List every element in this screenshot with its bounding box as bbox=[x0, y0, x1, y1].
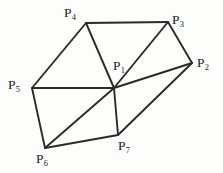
vertex-label-base: P bbox=[113, 58, 121, 73]
vertex-label-base: P bbox=[8, 77, 16, 92]
vertex-label-p3: P3 bbox=[172, 13, 184, 27]
mesh-edge-p6-p7 bbox=[45, 135, 118, 148]
vertex-label-base: P bbox=[64, 5, 72, 20]
vertex-label-p1: P1 bbox=[113, 59, 125, 73]
vertex-label-subscript: 1 bbox=[121, 65, 125, 75]
mesh-edge-p7-p2 bbox=[118, 63, 192, 135]
mesh-edge-p4-p1 bbox=[86, 23, 114, 88]
edge-group bbox=[32, 22, 192, 148]
vertex-label-subscript: 3 bbox=[180, 19, 184, 29]
mesh-edge-p5-p6 bbox=[32, 88, 45, 148]
mesh-figure: P1P2P3P4P5P6P7 bbox=[0, 0, 223, 173]
vertex-label-base: P bbox=[118, 138, 126, 153]
mesh-edge-p4-p3 bbox=[86, 22, 168, 23]
vertex-label-p4: P4 bbox=[64, 6, 76, 20]
vertex-label-subscript: 7 bbox=[126, 145, 130, 155]
mesh-edge-p1-p7 bbox=[114, 88, 118, 135]
mesh-canvas bbox=[0, 0, 223, 173]
vertex-label-base: P bbox=[172, 12, 180, 27]
mesh-edge-p4-p5 bbox=[32, 23, 86, 88]
mesh-edge-p3-p1 bbox=[114, 22, 168, 88]
vertex-label-p2: P2 bbox=[197, 56, 209, 70]
vertex-label-subscript: 6 bbox=[44, 158, 48, 168]
vertex-label-p7: P7 bbox=[118, 139, 130, 153]
vertex-label-p6: P6 bbox=[36, 152, 48, 166]
vertex-label-p5: P5 bbox=[8, 78, 20, 92]
vertex-label-base: P bbox=[36, 151, 44, 166]
vertex-label-subscript: 4 bbox=[72, 12, 76, 22]
vertex-label-subscript: 5 bbox=[16, 84, 20, 94]
mesh-edge-p1-p6 bbox=[45, 88, 114, 148]
vertex-label-base: P bbox=[197, 55, 205, 70]
vertex-label-subscript: 2 bbox=[205, 62, 209, 72]
